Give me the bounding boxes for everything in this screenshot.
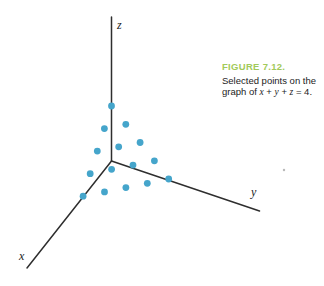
data-point [137,139,144,146]
data-point [165,176,172,183]
data-point [115,143,122,150]
figure-caption: FIGURE 7.12. Selected points on the grap… [222,61,324,99]
data-point [123,184,130,191]
data-point [108,166,115,173]
figure-7-12: z y x FIGURE 7.12. Selected points on th… [0,0,324,286]
data-point [101,125,108,132]
figure-label: FIGURE 7.12. [222,61,324,73]
data-point [94,148,101,155]
y-axis-label: y [250,185,257,199]
x-axis-label: x [18,249,25,263]
data-point [144,180,151,187]
data-points [80,103,172,200]
data-point [130,162,137,169]
caption-line1: Selected points on the [222,75,316,86]
y-axis [112,161,260,211]
x-axis [27,161,112,268]
stray-mark [283,169,285,171]
data-point [108,103,115,110]
data-point [101,189,108,196]
z-axis-label: z [116,18,122,32]
plot-svg: z y x [0,0,324,286]
data-point [151,157,158,164]
data-point [80,193,87,200]
caption-line2: graph of x + y + z = 4. [222,86,312,97]
data-point [122,121,129,128]
caption-text: Selected points on the graph of x + y + … [222,75,324,99]
data-point [87,170,94,177]
